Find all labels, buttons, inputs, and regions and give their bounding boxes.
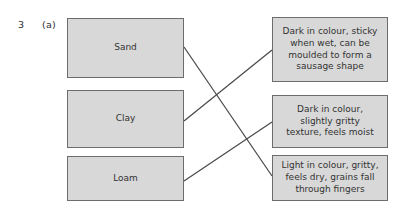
left-option-label: Sand — [68, 42, 183, 54]
right-option-label: Dark in colour, slightly gritty texture,… — [278, 104, 382, 140]
question-part-label: (a) — [42, 19, 56, 30]
question-number: 3 — [18, 19, 24, 30]
left-option-label: Clay — [68, 113, 183, 125]
right-option-box-3[interactable]: Light in colour, gritty, feels dry, grai… — [272, 155, 388, 201]
left-option-label: Loam — [68, 173, 183, 185]
connection-line-1[interactable] — [184, 47, 272, 176]
left-option-box-loam[interactable]: Loam — [67, 156, 184, 201]
right-option-box-2[interactable]: Dark in colour, slightly gritty texture,… — [272, 95, 388, 148]
left-option-box-sand[interactable]: Sand — [67, 18, 184, 78]
right-option-box-1[interactable]: Dark in colour, sticky when wet, can be … — [272, 17, 388, 82]
connection-line-3[interactable] — [184, 122, 272, 181]
connection-line-2[interactable] — [184, 50, 272, 121]
matching-exercise-page: 3 (a) Sand Clay Loam Dark in colour, sti… — [0, 0, 402, 201]
right-option-label: Light in colour, gritty, feels dry, grai… — [278, 160, 382, 196]
left-option-box-clay[interactable]: Clay — [67, 90, 184, 148]
right-option-label: Dark in colour, sticky when wet, can be … — [278, 26, 382, 74]
